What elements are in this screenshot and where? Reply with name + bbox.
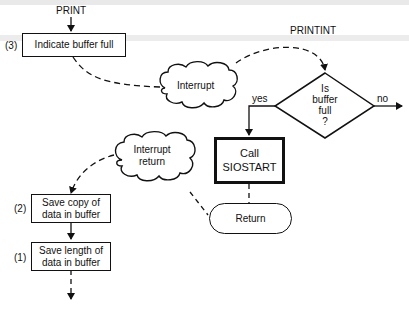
- return-text: Return: [235, 213, 265, 225]
- print-entry-label: PRINT: [56, 5, 86, 17]
- save-copy-box: Save copy of data in buffer: [31, 194, 111, 223]
- save-length-box: Save length of data in buffer: [31, 242, 111, 271]
- indicate-buffer-full-text: Indicate buffer full: [35, 39, 114, 51]
- step-number-2: (2): [14, 203, 26, 215]
- decision-line-2: buffer: [298, 94, 352, 105]
- indicate-buffer-full-box: Indicate buffer full: [22, 33, 126, 57]
- flowchart: PRINT PRINTINT (3) Indicate buffer full …: [0, 0, 409, 313]
- step-number-3: (3): [5, 40, 17, 52]
- yes-label: yes: [252, 93, 268, 105]
- save-length-line-2: data in buffer: [42, 257, 100, 269]
- decision-line-4: ?: [298, 116, 352, 127]
- interrupt-return-line-1: Interrupt: [122, 144, 182, 156]
- save-copy-line-2: data in buffer: [42, 209, 100, 221]
- siostart-line: SIOSTART: [223, 161, 277, 174]
- return-terminator: Return: [209, 203, 292, 234]
- interrupt-return-text: Interrupt return: [122, 144, 182, 168]
- decision-line-3: full: [298, 105, 352, 116]
- call-siostart-box: Call SIOSTART: [214, 137, 285, 184]
- decision-text: Is buffer full ?: [298, 83, 352, 127]
- no-label: no: [377, 93, 388, 105]
- interrupt-cloud-label: Interrupt: [177, 80, 214, 92]
- step-number-1: (1): [14, 252, 26, 264]
- call-line: Call: [240, 147, 259, 160]
- save-copy-line-1: Save copy of: [42, 197, 100, 209]
- decision-line-1: Is: [298, 83, 352, 94]
- interrupt-return-line-2: return: [122, 156, 182, 168]
- printint-entry-label: PRINTINT: [290, 25, 336, 37]
- save-length-line-1: Save length of: [39, 245, 103, 257]
